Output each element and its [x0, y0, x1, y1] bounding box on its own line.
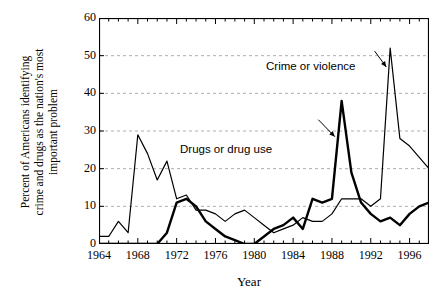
x-tick-label-1984: 1984	[273, 248, 313, 263]
plot-area	[99, 18, 429, 244]
x-tick-label-1964: 1964	[79, 248, 119, 263]
chart-svg	[99, 18, 429, 244]
x-tick-label-1980: 1980	[234, 248, 274, 263]
x-tick-label-1988: 1988	[312, 248, 352, 263]
y-tick-label-10: 10	[62, 198, 96, 213]
y-tick-label-40: 40	[62, 85, 96, 100]
y-axis-title-line-3: important problem	[46, 8, 60, 256]
series-line-1	[99, 101, 429, 244]
chart-figure: Percent of Americans identifying crime a…	[0, 0, 444, 304]
x-tick-label-1996: 1996	[390, 248, 430, 263]
annotation-crime-or-violence: Crime or violence	[266, 60, 355, 72]
x-tick-label-1968: 1968	[118, 248, 158, 263]
y-tick-label-60: 60	[62, 10, 96, 25]
annotation-arrow-crime-arrowhead	[381, 61, 386, 67]
x-tick-label-1972: 1972	[157, 248, 197, 263]
x-axis-title-text: Year	[237, 274, 261, 289]
y-tick-label-30: 30	[62, 123, 96, 138]
y-axis-title-line-2: crime and drugs as the nation's most	[32, 8, 46, 256]
x-axis-title: Year	[0, 274, 444, 290]
annotation-drugs-or-drug-use: Drugs or drug use	[180, 143, 272, 155]
y-tick-label-20: 20	[62, 161, 96, 176]
y-tick-label-50: 50	[62, 48, 96, 63]
y-axis-title-line-1: Percent of Americans identifying	[18, 8, 32, 256]
x-tick-label-1976: 1976	[195, 248, 235, 263]
x-tick-label-1992: 1992	[351, 248, 391, 263]
x-axis-tick-labels: 196419681972197619801984198819921996	[0, 248, 444, 268]
y-axis-title: Percent of Americans identifying crime a…	[18, 8, 58, 256]
